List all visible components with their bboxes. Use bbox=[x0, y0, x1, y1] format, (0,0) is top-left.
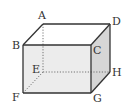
vertex-label-b: B bbox=[12, 39, 20, 52]
vertex-label-g: G bbox=[93, 92, 102, 104]
vertex-label-d: D bbox=[112, 15, 121, 28]
vertex-label-h: H bbox=[112, 66, 122, 79]
cuboid-diagram: A B C D E F G H bbox=[0, 0, 133, 104]
vertex-label-e: E bbox=[32, 63, 40, 76]
vertex-label-a: A bbox=[37, 9, 47, 22]
vertex-label-f: F bbox=[12, 91, 20, 104]
vertex-label-c: C bbox=[93, 44, 101, 57]
